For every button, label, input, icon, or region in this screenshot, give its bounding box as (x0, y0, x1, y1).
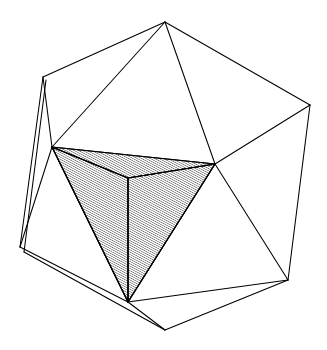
figure-canvas (0, 0, 327, 350)
geometry-figure (0, 0, 327, 350)
